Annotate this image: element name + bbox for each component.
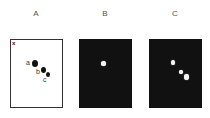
panel-a-schematic: x a b c <box>10 39 63 108</box>
bright-spot-1 <box>171 60 175 65</box>
panel-c-image <box>149 39 202 108</box>
panel-b-title: B <box>95 9 115 18</box>
spot-label-b: b <box>36 68 40 75</box>
bright-spot-3 <box>184 74 189 80</box>
panel-c-title: C <box>165 9 185 18</box>
origin-mark: x <box>12 40 15 47</box>
spot-label-a: a <box>26 59 30 66</box>
spot-a <box>32 60 38 67</box>
spot-label-c: c <box>43 76 47 83</box>
bright-spot <box>101 61 106 66</box>
panel-b-image <box>79 39 132 108</box>
bright-spot-2 <box>179 70 183 74</box>
spot-c <box>46 72 50 77</box>
spot-b <box>41 67 46 73</box>
panel-a-title: A <box>26 9 46 18</box>
